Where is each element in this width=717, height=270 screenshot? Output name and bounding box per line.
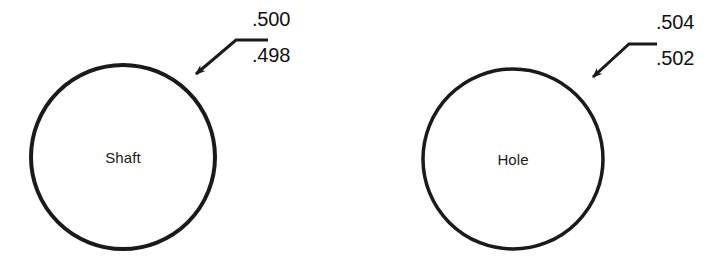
shaft-part-label: Shaft: [105, 149, 141, 166]
hole-lower-limit-value: .502: [656, 47, 694, 70]
shaft-figure: [31, 40, 268, 249]
hole-figure: [423, 44, 657, 249]
hole-leader-line: [593, 44, 657, 77]
shaft-lower-limit-value: .498: [252, 44, 290, 67]
hole-upper-limit-value: .504: [656, 11, 694, 34]
diagram-vector-layer: [0, 0, 717, 270]
shaft-upper-limit-value: .500: [252, 8, 290, 31]
hole-part-label: Hole: [497, 151, 528, 168]
diagram-canvas: Shaft .500 .498 Hole .504 .502: [0, 0, 717, 270]
